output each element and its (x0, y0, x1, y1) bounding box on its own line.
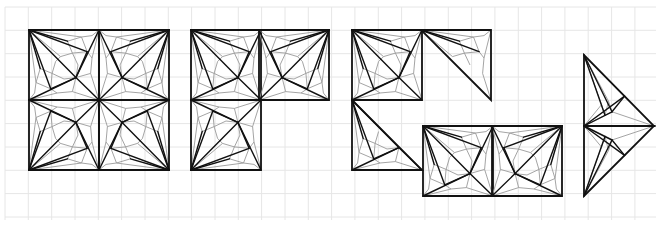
secondary-line (234, 52, 249, 53)
secondary-line (499, 132, 510, 133)
secondary-line (197, 107, 198, 118)
square-tile (99, 30, 169, 100)
secondary-line (106, 58, 107, 73)
secondary-line (277, 37, 291, 41)
secondary-line (539, 165, 551, 170)
secondary-line (395, 52, 410, 53)
secondary-line (358, 153, 359, 164)
secondary-line (466, 148, 481, 149)
secondary-line (479, 52, 484, 58)
triangle-tile (584, 126, 654, 196)
secondary-line (380, 162, 395, 163)
secondary-line (230, 41, 235, 53)
secondary-line (266, 58, 267, 73)
secondary-line (68, 147, 73, 159)
secondary-line (485, 154, 486, 169)
secondary-line (158, 118, 162, 132)
secondary-line (202, 127, 214, 132)
secondary-line (36, 69, 40, 83)
secondary-line (158, 69, 162, 83)
secondary-line (374, 143, 375, 158)
secondary-line (126, 143, 138, 147)
secondary-line (434, 165, 446, 170)
secondary-line (451, 188, 466, 189)
secondary-line (244, 163, 255, 164)
secondary-line (146, 73, 147, 88)
secondary-line (82, 36, 93, 37)
square-tile (259, 30, 329, 100)
triangle-tile (584, 55, 654, 126)
primary-line (213, 111, 238, 122)
secondary-line (234, 53, 240, 65)
secondary-line (146, 127, 158, 132)
secondary-line (219, 92, 234, 93)
secondary-line (430, 165, 434, 179)
secondary-line (429, 179, 430, 190)
secondary-line (363, 139, 375, 144)
secondary-line (474, 36, 485, 37)
secondary-line (117, 159, 131, 163)
secondary-line (57, 92, 72, 93)
square-tile (423, 126, 493, 196)
secondary-line (162, 83, 163, 94)
secondary-line (52, 73, 64, 79)
secondary-line (358, 83, 359, 94)
secondary-line (202, 69, 214, 74)
secondary-line (359, 69, 363, 83)
secondary-line (197, 83, 198, 94)
primary-line (584, 137, 605, 197)
secondary-line (230, 37, 244, 41)
secondary-line (551, 165, 555, 179)
secondary-line (271, 52, 286, 53)
secondary-line (146, 111, 147, 126)
primary-line (213, 78, 238, 89)
secondary-line (555, 179, 556, 190)
primary-line (515, 174, 540, 185)
secondary-line (244, 36, 255, 37)
secondary-line (82, 163, 93, 164)
secondary-line (126, 107, 141, 108)
secondary-line (483, 58, 484, 73)
secondary-line (219, 107, 234, 108)
secondary-line (91, 127, 92, 142)
triangle-tile (352, 100, 422, 170)
secondary-line (462, 133, 476, 137)
secondary-line (395, 53, 401, 65)
secondary-line (146, 69, 158, 74)
secondary-line (391, 37, 405, 41)
secondary-line (499, 154, 500, 169)
secondary-line (106, 36, 117, 37)
arrow-triangle (584, 55, 654, 196)
secondary-line (391, 41, 396, 53)
secondary-line (35, 83, 36, 94)
secondary-line (374, 73, 375, 88)
secondary-line (539, 169, 540, 184)
tile-outline (584, 126, 654, 196)
primary-line (122, 111, 147, 122)
secondary-line (52, 127, 56, 139)
secondary-line (106, 127, 107, 142)
tile-outline (584, 55, 654, 126)
secondary-line (414, 58, 415, 73)
secondary-line (504, 148, 519, 149)
secondary-line (306, 73, 307, 88)
secondary-line (234, 135, 240, 147)
secondary-line (363, 69, 375, 74)
secondary-line (213, 111, 214, 126)
secondary-line (266, 36, 277, 37)
secondary-line (61, 143, 73, 147)
secondary-line (464, 53, 470, 65)
secondary-line (445, 169, 446, 184)
secondary-line (91, 58, 92, 73)
secondary-line (126, 41, 131, 53)
primary-line (51, 111, 76, 122)
secondary-line (52, 62, 56, 74)
secondary-line (286, 41, 291, 53)
two-by-two-square (29, 30, 169, 170)
secondary-line (535, 158, 539, 170)
square-tile (492, 126, 562, 196)
secondary-line (57, 107, 72, 108)
secondary-line (106, 163, 117, 164)
secondary-line (519, 188, 534, 189)
secondary-line (405, 36, 416, 37)
